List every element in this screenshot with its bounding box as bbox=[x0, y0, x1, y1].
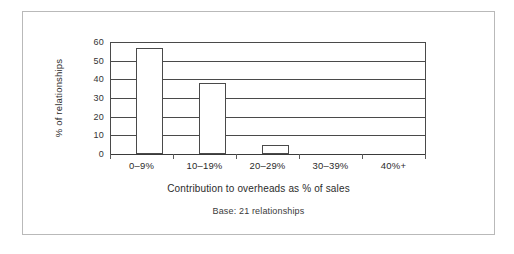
bar-20-29-percent bbox=[262, 145, 289, 154]
y-tick-label: 20 bbox=[82, 113, 104, 122]
x-tick-mark bbox=[425, 154, 426, 159]
x-tick-label-40-plus: 40%+ bbox=[362, 160, 425, 171]
x-tick-label-20-29: 20–29% bbox=[236, 160, 299, 171]
bar-10-19-percent bbox=[199, 83, 226, 154]
x-tick-label-30-39: 30–39% bbox=[299, 160, 362, 171]
x-tick-mark bbox=[299, 154, 300, 159]
x-tick-mark bbox=[362, 154, 363, 159]
x-tick-mark bbox=[173, 154, 174, 159]
y-tick-label: 0 bbox=[82, 150, 104, 159]
x-axis-title: Contribution to overheads as % of sales bbox=[22, 183, 495, 195]
x-tick-mark bbox=[110, 154, 111, 159]
y-tick-label: 50 bbox=[82, 57, 104, 66]
y-tick-label: 30 bbox=[82, 94, 104, 103]
bar-0-9-percent bbox=[136, 48, 163, 154]
y-axis-tick-labels: 60 50 40 30 20 10 0 bbox=[82, 42, 104, 154]
y-axis-title-text: % of relationships bbox=[52, 42, 66, 154]
y-tick-label: 40 bbox=[82, 75, 104, 84]
gridline-60 bbox=[110, 42, 425, 43]
plot-right-edge bbox=[425, 42, 426, 154]
gridline-0-baseline bbox=[110, 154, 425, 155]
y-axis-title: % of relationships bbox=[52, 0, 66, 42]
chart-figure: 60 50 40 30 20 10 0 0–9% 10–19% 20–29% 3… bbox=[0, 0, 514, 254]
y-tick-label: 10 bbox=[82, 131, 104, 140]
plot-area bbox=[110, 42, 425, 154]
base-note: Base: 21 relationships bbox=[22, 206, 495, 217]
x-tick-mark bbox=[236, 154, 237, 159]
x-tick-label-0-9: 0–9% bbox=[110, 160, 173, 171]
x-tick-label-10-19: 10–19% bbox=[173, 160, 236, 171]
y-tick-label: 60 bbox=[82, 38, 104, 47]
